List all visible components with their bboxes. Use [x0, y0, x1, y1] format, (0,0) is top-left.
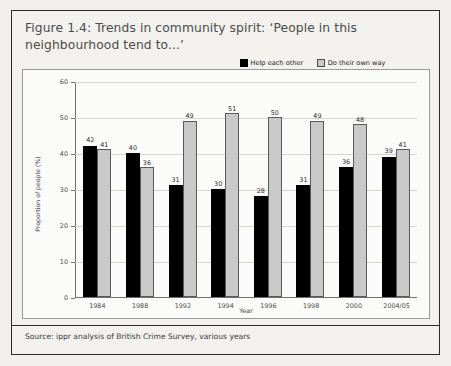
- y-tick-mark: [71, 190, 75, 191]
- y-tick-mark: [71, 226, 75, 227]
- bar-help-each-other: 42: [83, 146, 97, 297]
- bar-help-each-other: 30: [211, 189, 225, 297]
- bar-group: 3648: [332, 82, 375, 297]
- bar-value-label: 49: [313, 112, 321, 120]
- bar-value-label: 40: [129, 144, 137, 152]
- bar-group: 3941: [374, 82, 417, 297]
- bar-value-label: 36: [342, 158, 350, 166]
- source-note: Source: ippr analysis of British Crime S…: [25, 332, 250, 341]
- bar-value-label: 42: [86, 136, 94, 144]
- bar-help-each-other: 39: [382, 157, 396, 297]
- bar-do-their-own-way: 36: [140, 167, 154, 297]
- bar-help-each-other: 28: [254, 196, 268, 297]
- legend-item-help-each-other: Help each other: [240, 59, 303, 67]
- y-tick-label: 40: [60, 150, 68, 158]
- plot-area: 0102030405060 42414036314930512850314936…: [75, 82, 417, 298]
- bar-value-label: 41: [100, 141, 108, 149]
- chart-legend: Help each otherDo their own way: [240, 59, 385, 67]
- bar-value-label: 50: [271, 109, 279, 117]
- bar-do-their-own-way: 41: [396, 149, 410, 297]
- y-tick-mark: [71, 298, 75, 299]
- y-tick-mark: [71, 154, 75, 155]
- y-tick-mark: [71, 82, 75, 83]
- y-axis-title: Proportion of people (%): [34, 156, 41, 231]
- bar-value-label: 48: [356, 116, 364, 124]
- y-tick-label: 50: [60, 114, 68, 122]
- bar-do-their-own-way: 51: [225, 113, 239, 297]
- bar-help-each-other: 31: [296, 185, 310, 297]
- bar-group: 3051: [204, 82, 247, 297]
- bar-value-label: 39: [385, 147, 393, 155]
- bar-groups: 42414036314930512850314936483941: [76, 82, 417, 297]
- bar-help-each-other: 40: [126, 153, 140, 297]
- bar-value-label: 31: [171, 176, 179, 184]
- bar-do-their-own-way: 50: [268, 117, 282, 297]
- bar-value-label: 36: [143, 159, 151, 167]
- bar-help-each-other: 31: [169, 185, 183, 297]
- plot-frame: Proportion of people (%) 0102030405060 4…: [22, 69, 430, 319]
- bar-value-label: 49: [185, 112, 193, 120]
- bar-do-their-own-way: 49: [183, 121, 197, 297]
- legend-swatch-icon: [240, 59, 248, 67]
- y-tick-label: 30: [60, 186, 68, 194]
- legend-item-do-their-own-way: Do their own way: [317, 59, 385, 67]
- y-tick-mark: [71, 118, 75, 119]
- bar-value-label: 51: [228, 105, 236, 113]
- bar-help-each-other: 36: [339, 167, 353, 297]
- y-tick-label: 20: [60, 222, 68, 230]
- bar-do-their-own-way: 49: [310, 121, 324, 297]
- legend-label: Do their own way: [328, 59, 386, 67]
- bar-value-label: 31: [299, 176, 307, 184]
- x-axis-title: Year: [75, 307, 417, 315]
- gridline: [75, 298, 417, 299]
- bar-group: 2850: [247, 82, 290, 297]
- legend-swatch-icon: [317, 59, 325, 67]
- figure-container: Figure 1.4: Trends in community spirit: …: [0, 0, 451, 366]
- source-divider: [12, 325, 439, 326]
- y-tick-label: 0: [64, 294, 68, 302]
- bar-group: 3149: [161, 82, 204, 297]
- bar-group: 4241: [76, 82, 119, 297]
- bar-value-label: 30: [214, 180, 222, 188]
- y-tick-label: 60: [60, 78, 68, 86]
- bar-value-label: 28: [257, 187, 265, 195]
- bar-group: 4036: [119, 82, 162, 297]
- bar-group: 3149: [289, 82, 332, 297]
- y-tick-label: 10: [60, 258, 68, 266]
- figure-title: Figure 1.4: Trends in community spirit: …: [25, 20, 415, 53]
- legend-label: Help each other: [251, 59, 304, 67]
- bar-do-their-own-way: 48: [353, 124, 367, 297]
- bar-do-their-own-way: 41: [97, 149, 111, 297]
- y-tick-mark: [71, 262, 75, 263]
- bar-value-label: 41: [399, 141, 407, 149]
